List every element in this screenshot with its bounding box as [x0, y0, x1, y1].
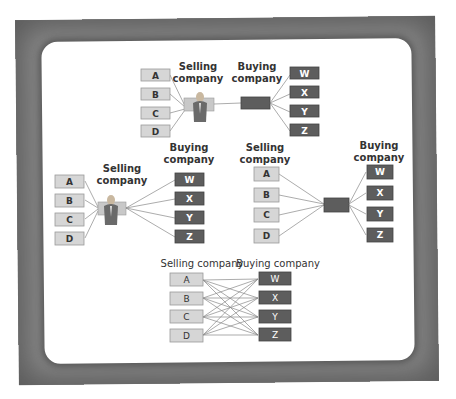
buying-company-label-line2: company — [164, 154, 215, 165]
buying-hub-box — [324, 198, 349, 212]
buyer-label: Z — [301, 126, 308, 136]
seller-label: C — [152, 109, 159, 119]
buyer-label: Y — [185, 213, 193, 223]
seller-label: D — [263, 231, 270, 241]
seller-label: B — [263, 190, 270, 200]
buying-company-label-line1: Buying — [238, 61, 277, 72]
buying-company-label-line2: company — [354, 152, 405, 163]
buyer-label: Y — [271, 312, 278, 322]
buyer-label: X — [301, 88, 308, 98]
buying-company-label-line1: Buying — [170, 142, 209, 153]
buyer-label: Z — [377, 230, 384, 240]
buying-company-label-line2: company — [232, 73, 283, 84]
connector-lines — [279, 174, 324, 236]
buyer-label: Y — [376, 209, 384, 219]
diagram-bottom: Selling company Buying company A B C D W… — [161, 258, 320, 342]
person-icon — [193, 92, 207, 122]
many-to-many-connector-lines — [203, 279, 258, 335]
selling-company-label-line1: Selling — [246, 142, 285, 153]
buyer-label: W — [185, 175, 195, 185]
selling-company-label-line2: company — [240, 154, 291, 165]
seller-label: A — [183, 275, 190, 285]
seller-label: B — [183, 294, 189, 304]
seller-label: C — [183, 312, 189, 322]
buying-company-label-line1: Buying — [360, 140, 399, 151]
seller-label: D — [183, 331, 190, 341]
seller-label: B — [66, 196, 73, 206]
selling-company-label: Selling company — [161, 258, 244, 269]
buyer-label: X — [186, 194, 193, 204]
seller-label: A — [66, 177, 73, 187]
seller-label: B — [152, 90, 159, 100]
buyer-label: X — [272, 293, 278, 303]
diagram-canvas: Selling company Buying company A B C D W… — [0, 0, 456, 399]
seller-label: C — [263, 210, 270, 220]
buyer-label: W — [300, 69, 310, 79]
seller-label: D — [66, 234, 73, 244]
selling-company-label-line1: Selling — [103, 163, 142, 174]
buyer-label: Z — [272, 330, 278, 340]
hub-link-line — [214, 103, 241, 104]
buyer-label: X — [377, 188, 384, 198]
diagram-middle-right: Selling company Buying company A B C D W… — [240, 140, 405, 243]
connector-lines — [126, 180, 175, 237]
seller-label: C — [66, 215, 73, 225]
seller-label: D — [152, 127, 159, 137]
buyer-label: Z — [186, 232, 193, 242]
buyer-label: W — [375, 167, 385, 177]
person-icon — [104, 195, 118, 225]
buyer-label: W — [271, 274, 280, 284]
seller-label: A — [152, 71, 159, 81]
selling-company-label-line1: Selling — [179, 61, 218, 72]
buyer-label: Y — [300, 107, 308, 117]
connector-lines — [349, 172, 366, 235]
selling-company-label-line2: company — [97, 175, 148, 186]
diagram-middle-left: Selling company Buying company A B C D W… — [55, 142, 215, 245]
buying-hub-box — [241, 97, 270, 109]
buying-company-label: Buying company — [236, 258, 320, 269]
diagram-top: Selling company Buying company A B C D W… — [141, 61, 319, 137]
selling-company-label-line2: company — [173, 73, 224, 84]
seller-label: A — [263, 169, 270, 179]
connector-lines — [85, 181, 98, 238]
